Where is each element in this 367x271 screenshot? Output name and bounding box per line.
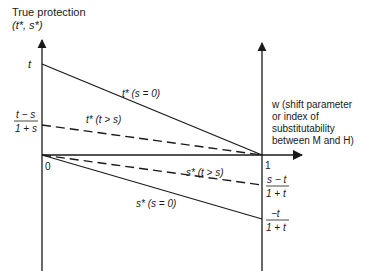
label-t: t bbox=[28, 58, 32, 70]
label-t-minus-s-numerator: t − s bbox=[16, 109, 35, 120]
w-axis-label-line2: or index of bbox=[272, 111, 319, 122]
label-s-minus-t-denominator: 1 + t bbox=[266, 188, 287, 199]
y-axis-title: True protection bbox=[12, 6, 86, 18]
w-axis-label-line4: between M and H) bbox=[272, 135, 354, 146]
label-one: 1 bbox=[265, 160, 271, 171]
label-line-s-star-s-zero: s* (s = 0) bbox=[136, 198, 176, 209]
label-neg-t-denominator: 1 + t bbox=[266, 222, 287, 233]
label-origin-zero: 0 bbox=[45, 161, 51, 172]
label-s-minus-t-numerator: s − t bbox=[267, 174, 287, 185]
label-line-t-star-s-zero: t* (s = 0) bbox=[122, 88, 160, 99]
line-t-star-t-gt-s bbox=[42, 125, 262, 155]
line-s-star-s-zero bbox=[42, 155, 262, 219]
line-t-star-s-zero bbox=[42, 64, 262, 155]
y-axis-subtitle: (t*, s*) bbox=[12, 19, 43, 31]
label-t-minus-s-denominator: 1 + s bbox=[15, 123, 37, 134]
label-neg-t-numerator: −t bbox=[271, 208, 281, 219]
w-axis-label-line1: w (shift parameter bbox=[271, 99, 353, 110]
w-axis-label-line3: substitutability bbox=[272, 123, 335, 134]
line-s-star-t-gt-s bbox=[42, 155, 262, 185]
protection-diagram: True protection (t*, s*) t t − s 1 + s 0… bbox=[0, 0, 367, 271]
label-line-s-star-t-gt-s: s* (t > s) bbox=[186, 167, 224, 178]
label-line-t-star-t-gt-s: t* (t > s) bbox=[86, 114, 121, 125]
